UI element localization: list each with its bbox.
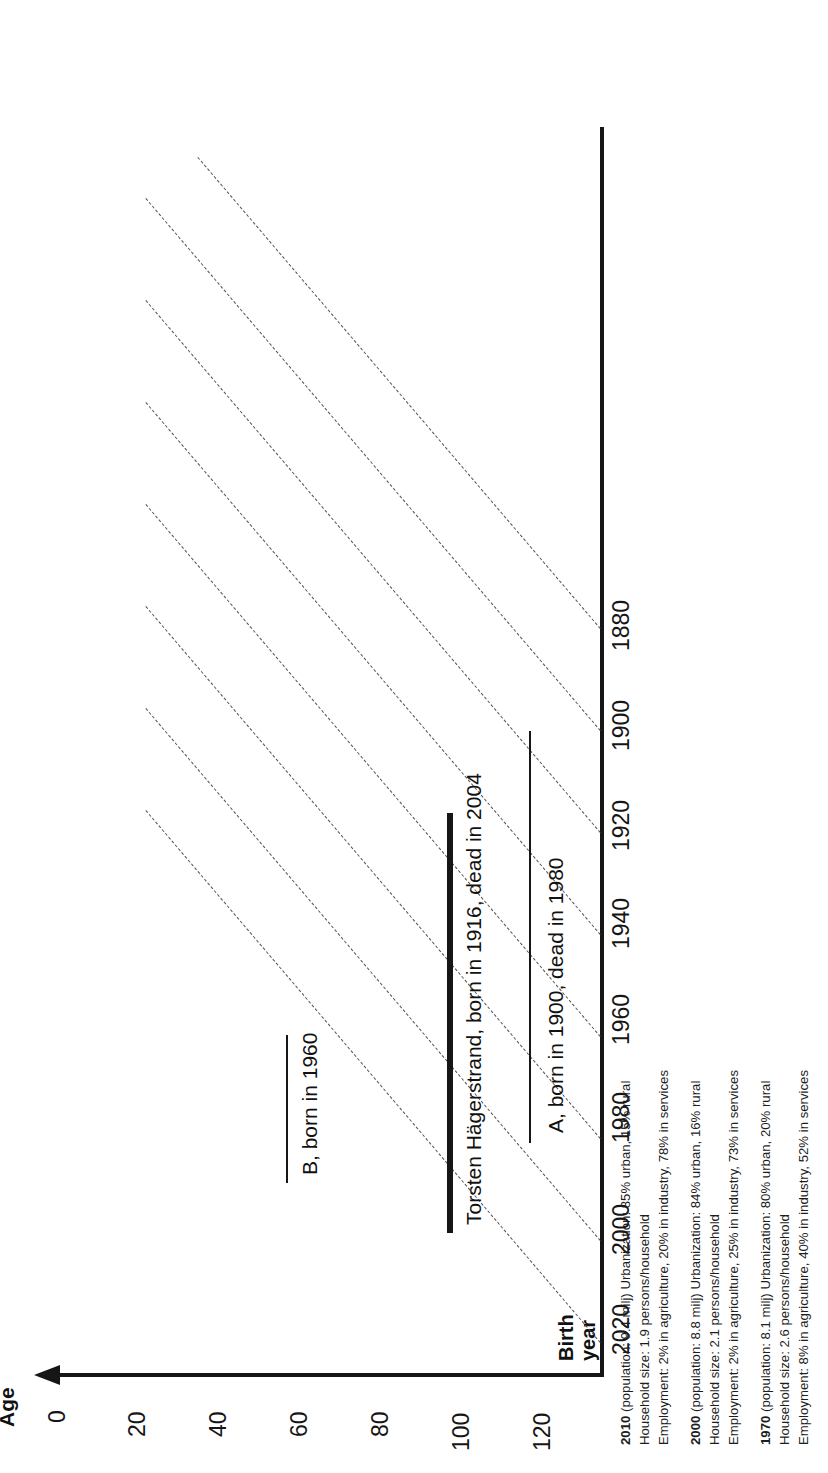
cohort-line-1980	[145, 606, 600, 1139]
life-line-a	[529, 731, 531, 1143]
age-tick-0: 0	[44, 1410, 71, 1423]
life-label-a: A, born in 1900, dead in 1980	[544, 857, 568, 1133]
cohort-line-1960	[145, 504, 600, 1037]
figure-canvas: 0 20 40 60 80 100 120 Age 2020 2000 1980…	[0, 0, 828, 1473]
stat-head-2000: (population: 8.8 milj) Urbanization: 84%…	[688, 1081, 703, 1416]
stat-block-1970: 1970 (population: 8.1 milj) Urbanization…	[756, 805, 813, 1445]
life-line-b-span	[286, 1035, 288, 1183]
cohort-line-2020	[145, 810, 600, 1343]
age-tick-40: 40	[205, 1411, 232, 1437]
stat-household-1970: Household size: 2.6 persons/household	[775, 805, 794, 1445]
cohort-line-2000	[145, 708, 600, 1241]
birth-tick-1900: 1900	[608, 700, 635, 751]
cohort-line-1900	[145, 198, 600, 731]
stat-head-2010: (population: 9.4 milj) Urbanization: 85%…	[618, 1081, 633, 1416]
age-tick-60: 60	[286, 1411, 313, 1437]
birth-axis-title-line1: Birth	[556, 1314, 578, 1361]
cohort-line-1940	[145, 402, 600, 935]
life-label-b: B, born in 1960	[298, 1033, 322, 1175]
life-line-hagerstrand	[447, 813, 453, 1233]
cohort-line-1920	[145, 300, 600, 833]
age-tick-20: 20	[124, 1411, 151, 1437]
age-tick-120: 120	[529, 1413, 556, 1451]
cohort-line-1880	[197, 157, 600, 629]
birth-tick-1880: 1880	[608, 600, 635, 651]
stat-household-2000: Household size: 2.1 persons/household	[705, 805, 724, 1445]
stat-employment-2010: Employment: 2% in agriculture, 20% in in…	[654, 805, 673, 1445]
stat-block-2000: 2000 (population: 8.8 milj) Urbanization…	[686, 805, 743, 1445]
stat-year-1970: 1970	[758, 1416, 773, 1445]
stat-employment-1970: Employment: 8% in agriculture, 40% in in…	[794, 805, 813, 1445]
age-tick-80: 80	[367, 1411, 394, 1437]
age-axis-title: Age	[0, 1387, 19, 1427]
stat-household-2010: Household size: 1.9 persons/household	[635, 805, 654, 1445]
age-tick-100: 100	[448, 1413, 475, 1451]
stat-employment-2000: Employment: 2% in agriculture, 25% in in…	[724, 805, 743, 1445]
rotated-figure-host: 0 20 40 60 80 100 120 Age 2020 2000 1980…	[0, 0, 828, 1473]
birth-year-axis-line	[600, 127, 604, 1377]
stat-block-2010: 2010 (population: 9.4 milj) Urbanization…	[616, 805, 673, 1445]
life-label-hagerstrand: Torsten Hägerstrand, born in 1916, dead …	[462, 773, 486, 1225]
birth-axis-title-line2: year	[578, 1320, 600, 1361]
stat-head-1970: (population: 8.1 milj) Urbanization: 80%…	[758, 1081, 773, 1416]
age-axis-arrowhead	[34, 1365, 60, 1385]
stat-year-2010: 2010	[618, 1416, 633, 1445]
age-axis-line	[58, 1373, 604, 1377]
stat-year-2000: 2000	[688, 1416, 703, 1445]
